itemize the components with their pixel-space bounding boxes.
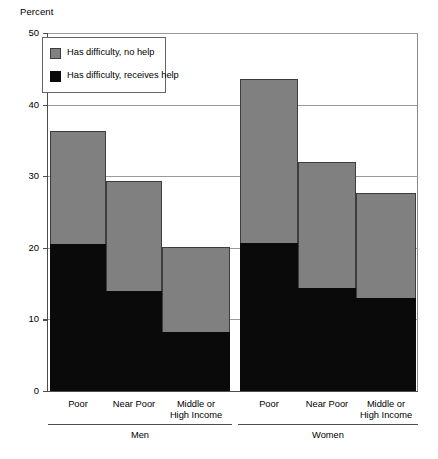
x-axis-line xyxy=(47,391,418,392)
bar-men-poor xyxy=(50,131,106,391)
bar-segment-receives-help xyxy=(106,291,162,391)
y-axis-tick-labels: 50403020100 xyxy=(0,0,39,459)
bar-men-near-poor xyxy=(106,181,162,391)
legend-swatch-black-icon xyxy=(50,71,61,82)
bar-segment-receives-help xyxy=(240,243,298,391)
legend-swatch-gray-icon xyxy=(50,48,61,59)
bar-women-middle-or-high-income xyxy=(356,193,416,391)
bar-segment-receives-help xyxy=(356,298,416,391)
category-label-line: High Income xyxy=(342,410,430,421)
y-tick-label: 40 xyxy=(6,100,39,110)
bar-segment-no-help xyxy=(298,162,356,289)
group-rule xyxy=(48,424,232,425)
bar-segment-no-help xyxy=(106,181,162,292)
bar-segment-no-help xyxy=(240,79,298,244)
stacked-bar-chart: Percent 50403020100 Has difficulty, no h… xyxy=(0,0,438,459)
legend-label: Has difficulty, receives help xyxy=(67,71,179,80)
legend-item-receives-help: Has difficulty, receives help xyxy=(50,69,179,83)
y-tick-label: 0 xyxy=(6,386,39,396)
y-tick-label: 10 xyxy=(6,314,39,324)
legend: Has difficulty, no help Has difficulty, … xyxy=(42,37,166,93)
y-tick-label: 20 xyxy=(6,243,39,253)
gridline-50 xyxy=(47,33,418,34)
bar-segment-receives-help xyxy=(50,244,106,391)
category-label: Middle orHigh Income xyxy=(342,399,430,421)
group-label-men: Men xyxy=(48,431,232,440)
group-label-women: Women xyxy=(238,431,418,440)
bar-segment-no-help xyxy=(162,247,230,333)
bar-segment-receives-help xyxy=(162,332,230,391)
y-tick-label: 30 xyxy=(6,171,39,181)
bar-women-near-poor xyxy=(298,162,356,391)
bar-men-middle-or-high-income xyxy=(162,247,230,391)
category-label-line: Middle or xyxy=(342,399,430,410)
group-rule xyxy=(238,424,418,425)
bar-segment-no-help xyxy=(356,193,416,299)
plot-frame-right-border xyxy=(417,33,418,391)
bar-segment-receives-help xyxy=(298,288,356,391)
legend-item-no-help: Has difficulty, no help xyxy=(50,46,155,60)
category-label-line: High Income xyxy=(148,410,244,421)
gridline-40 xyxy=(47,105,418,106)
bar-segment-no-help xyxy=(50,131,106,245)
bar-women-poor xyxy=(240,79,298,391)
legend-label: Has difficulty, no help xyxy=(67,48,155,57)
y-tick-label: 50 xyxy=(6,28,39,38)
